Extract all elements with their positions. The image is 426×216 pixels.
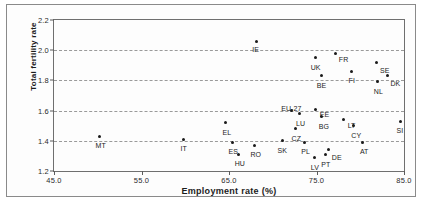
- data-point-label: NL: [374, 88, 383, 95]
- y-tick-mark: [50, 140, 54, 141]
- data-point-label: DK: [390, 80, 400, 87]
- y-tick-label: 2.2: [38, 16, 49, 25]
- data-point: [98, 135, 101, 138]
- data-point-label: PL: [301, 148, 310, 155]
- data-point: [375, 61, 378, 64]
- data-point: [255, 40, 258, 43]
- data-point-label: EU-27: [281, 105, 301, 112]
- x-tick-label: 55.0: [134, 176, 149, 185]
- data-point-label: CZ: [292, 135, 302, 142]
- data-point: [182, 138, 185, 141]
- gridline: [54, 111, 404, 112]
- x-tick-mark: [142, 171, 143, 175]
- x-tick-label: 45.0: [46, 176, 61, 185]
- data-point: [320, 74, 323, 77]
- data-point: [294, 127, 297, 130]
- data-point-label: PT: [321, 161, 330, 168]
- data-point: [334, 52, 337, 55]
- data-point-label: RO: [250, 151, 261, 158]
- gridline: [54, 141, 404, 142]
- data-point: [231, 141, 234, 144]
- y-tick-mark: [50, 50, 54, 51]
- data-point-label: EL: [223, 129, 232, 136]
- data-point: [327, 148, 330, 151]
- data-point-label: SE: [380, 67, 390, 74]
- data-point: [352, 124, 355, 127]
- data-point-label: FR: [339, 56, 349, 63]
- gridline: [54, 50, 404, 51]
- data-point-label: FI: [349, 77, 355, 84]
- x-tick-label: 75.0: [309, 176, 324, 185]
- data-point: [313, 156, 316, 159]
- data-point-label: SI: [397, 127, 404, 134]
- x-tick-label: 65.0: [221, 176, 236, 185]
- y-axis-title: Total fertility rate: [29, 0, 38, 127]
- data-point: [314, 108, 317, 111]
- data-point: [314, 56, 317, 59]
- data-point-label: UK: [311, 64, 321, 71]
- x-tick-label: 85.0: [396, 176, 411, 185]
- data-point-label: SK: [277, 147, 287, 154]
- y-tick-label: 1.4: [38, 136, 49, 145]
- data-point-label: HU: [235, 160, 245, 167]
- data-point: [350, 70, 353, 73]
- data-point: [253, 144, 256, 147]
- x-tick-mark: [404, 171, 405, 175]
- figure-frame: Total fertility rate 2.22.01.81.61.41.24…: [6, 4, 416, 197]
- data-point-label: IE: [252, 46, 259, 53]
- data-point-label: AT: [360, 148, 369, 155]
- y-tick-label: 1.6: [38, 106, 49, 115]
- data-point: [361, 141, 364, 144]
- data-point: [298, 112, 301, 115]
- data-point: [324, 153, 327, 156]
- x-axis-title: Employment rate (%): [53, 186, 405, 196]
- data-point-label: LV: [311, 164, 319, 171]
- y-tick-label: 2.0: [38, 46, 49, 55]
- data-point: [342, 118, 345, 121]
- data-point: [281, 139, 284, 142]
- plot-area: 2.22.01.81.61.41.245.055.065.075.085.0IE…: [53, 19, 405, 172]
- y-tick-mark: [50, 110, 54, 111]
- data-point-label: DE: [332, 154, 342, 161]
- data-point: [376, 80, 379, 83]
- x-tick-mark: [229, 171, 230, 175]
- x-tick-mark: [54, 171, 55, 175]
- y-tick-mark: [50, 80, 54, 81]
- y-tick-mark: [50, 20, 54, 21]
- y-tick-label: 1.8: [38, 76, 49, 85]
- data-point: [399, 120, 402, 123]
- data-point-label: LU: [296, 120, 305, 127]
- y-tick-label: 1.2: [38, 167, 49, 176]
- data-point-label: CY: [351, 132, 361, 139]
- data-point-label: MT: [96, 142, 106, 149]
- data-point-label: BE: [317, 82, 327, 89]
- data-point: [224, 121, 227, 124]
- data-point-label: BG: [319, 123, 329, 130]
- data-point-label: IT: [181, 145, 187, 152]
- data-point: [386, 74, 389, 77]
- data-point: [237, 153, 240, 156]
- data-point: [303, 141, 306, 144]
- x-tick-mark: [317, 171, 318, 175]
